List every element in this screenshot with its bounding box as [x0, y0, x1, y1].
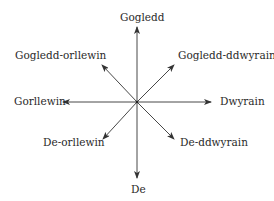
label-north: Gogledd — [120, 12, 164, 23]
label-south-east: De-ddwyrain — [180, 137, 248, 148]
label-south: De — [131, 184, 146, 195]
label-west: Gorllewin — [14, 96, 66, 107]
center-point — [136, 101, 139, 104]
label-north-east: Gogledd-ddwyrain — [178, 50, 274, 61]
label-north-west: Gogledd-orllewin — [15, 50, 106, 61]
label-south-west: De-orllewin — [43, 137, 105, 148]
compass-diagram: Gogledd Gogledd-orllewin Gogledd-ddwyrai… — [0, 0, 274, 201]
arrow-north-west — [102, 65, 137, 102]
arrow-south-west — [103, 102, 137, 139]
arrow-south-east — [137, 102, 174, 139]
arrow-north-east — [137, 65, 174, 102]
label-east: Dwyrain — [220, 96, 265, 107]
